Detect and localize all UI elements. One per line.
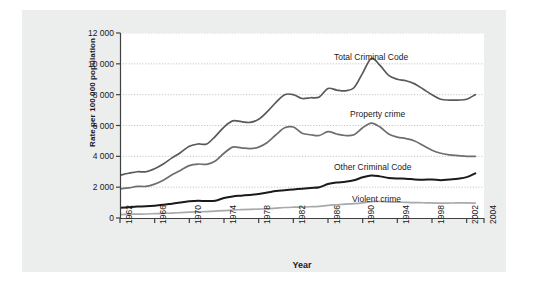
x-tick-label: 1978 [262, 205, 272, 224]
series-annotation: Violent crime [352, 194, 401, 204]
y-tick-label: 10 000 [68, 59, 114, 69]
chart-svg [120, 33, 484, 218]
chart-panel: Rate per 100 000 population 02 0004 0006… [22, 10, 506, 272]
series-line-total-criminal-code [120, 58, 475, 175]
series-annotation: Total Criminal Code [334, 52, 408, 62]
y-tick-label: 0 [68, 213, 114, 223]
x-tick-label: 2004 [488, 205, 498, 224]
x-tick-label: 1982 [297, 205, 307, 224]
x-tick-label: 1990 [366, 205, 376, 224]
x-tick-label: 1962 [124, 205, 134, 224]
chart-figure: Rate per 100 000 population 02 0004 0006… [0, 0, 534, 285]
series-annotation: Property crime [350, 109, 405, 119]
y-tick-label: 6 000 [68, 121, 114, 131]
x-axis-tick-labels: 1962196619701974197819821986199019941998… [120, 222, 484, 256]
x-tick-label: 1994 [401, 205, 411, 224]
x-tick-label: 1998 [436, 205, 446, 224]
y-axis-tick-labels: 02 0004 0006 0008 00010 00012 000 [66, 33, 114, 218]
plot-area: Total Criminal CodeProperty crimeOther C… [120, 33, 484, 218]
x-tick-label: 2002 [470, 205, 480, 224]
y-tick-label: 8 000 [68, 90, 114, 100]
y-tick-label: 4 000 [68, 151, 114, 161]
x-tick-label: 1974 [228, 205, 238, 224]
x-tick-label: 1986 [332, 205, 342, 224]
y-tick-label: 2 000 [68, 182, 114, 192]
x-tick-label: 1970 [193, 205, 203, 224]
gridlines [120, 33, 484, 187]
series-annotation: Other Criminal Code [334, 162, 411, 172]
series-lines [120, 58, 475, 214]
x-tick-label: 1966 [158, 205, 168, 224]
y-tick-label: 12 000 [68, 28, 114, 38]
x-axis-title: Year [120, 260, 484, 270]
